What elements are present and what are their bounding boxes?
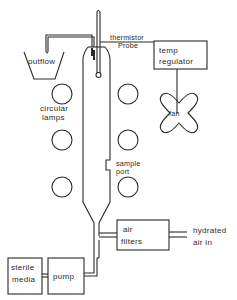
outflow-tube <box>46 35 94 56</box>
circular-lamps-label-2: lamps <box>42 113 65 122</box>
air-filters: air filters <box>99 220 187 250</box>
culture-column <box>83 47 110 258</box>
sterile-media: sterile media <box>8 258 42 294</box>
probe-label: Probe <box>118 41 138 50</box>
circular-lamps-left: circular lamps <box>40 84 72 197</box>
lamp-circle-icon <box>118 84 138 104</box>
sterile-media-label-2: media <box>12 275 36 284</box>
fan-label: fan <box>169 109 180 118</box>
pump: pump <box>48 258 84 294</box>
circular-lamps-right <box>118 84 138 197</box>
sample-port-label-2: port <box>116 167 129 176</box>
lamp-circle-icon <box>118 177 138 197</box>
hydrated-air-label-1: hydrated <box>193 226 227 235</box>
media-pump-line <box>42 274 48 277</box>
lamp-circle-icon <box>52 177 72 197</box>
outflow-vessel: outflow <box>24 52 64 79</box>
lamp-circle-icon <box>52 130 72 150</box>
sterile-media-label-1: sterile <box>11 263 35 272</box>
column-stopper-tube <box>93 50 95 60</box>
thermistor-probe: thermistor Probe <box>96 11 154 78</box>
air-filters-label-2: filters <box>121 237 142 246</box>
pump-label: pump <box>53 272 74 281</box>
outflow-tube-inlet <box>91 48 93 56</box>
hydrated-air-label-2: air in <box>193 238 212 247</box>
media-feed-line <box>84 256 99 276</box>
sample-port: sample port <box>116 159 140 176</box>
outflow-label: outflow <box>28 57 55 66</box>
hydrated-air-inlet: hydrated air in <box>193 226 227 247</box>
circular-lamps-label-1: circular <box>40 104 68 113</box>
air-filters-label-1: air <box>123 225 133 234</box>
apparatus-diagram: outflow thermistor Probe sample port cir… <box>0 0 237 300</box>
fan: fan <box>160 93 197 132</box>
lamp-circle-icon <box>52 84 72 104</box>
temp-regulator-label-2: regulator <box>159 57 193 66</box>
temp-regulator-label-1: temp <box>159 46 178 55</box>
lamp-circle-icon <box>118 130 138 150</box>
